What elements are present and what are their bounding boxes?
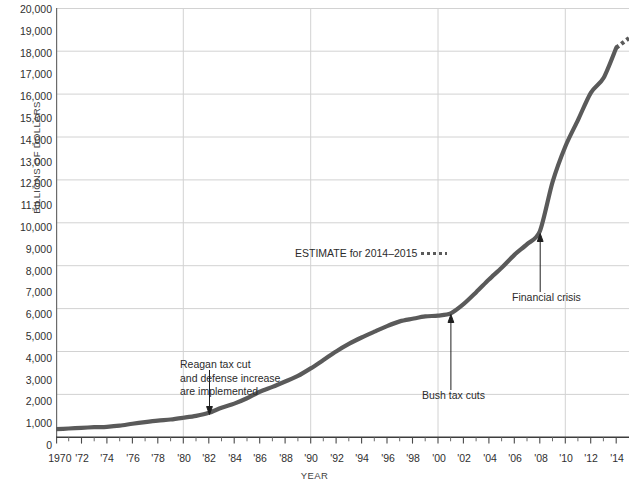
x-tick-label: '96 [381, 452, 395, 464]
annotation-reagan-line2: and defense increase [180, 372, 280, 386]
x-tick-label: '86 [253, 452, 267, 464]
x-tick-label: '74 [100, 452, 114, 464]
annotation-bush-tax-cuts: Bush tax cuts [422, 389, 485, 403]
x-tick-label: '84 [228, 452, 242, 464]
x-tick-label: '12 [584, 452, 598, 464]
x-tick-label: '78 [151, 452, 165, 464]
x-tick-label: '82 [202, 452, 216, 464]
x-tick-label: 1970 [48, 452, 71, 464]
annotation-reagan-line1: Reagan tax cut [180, 358, 280, 372]
annotation-estimate-legend: ESTIMATE for 2014–2015 [295, 247, 447, 261]
x-tick-label: '92 [330, 452, 344, 464]
x-tick-label: '00 [432, 452, 446, 464]
x-tick-label: '72 [75, 452, 89, 464]
x-tick-label: '14 [610, 452, 624, 464]
dashed-line-sample-icon [421, 252, 447, 255]
x-tick-label: '06 [508, 452, 522, 464]
annotation-reagan-line3: are implemented [180, 385, 280, 399]
chart-figure: BILLIONS OF DOLLARS 20,000 19,000 18,000… [0, 0, 629, 487]
x-axis-tick-labels: 1970 '72 '74 '76 '78 '80 '82 '84 '86 '88… [0, 0, 629, 487]
x-tick-label: '88 [279, 452, 293, 464]
x-tick-label: '10 [559, 452, 573, 464]
x-tick-label: '90 [304, 452, 318, 464]
x-tick-label: '80 [177, 452, 191, 464]
annotation-financial-crisis: Financial crisis [512, 291, 581, 305]
x-axis-title: YEAR [0, 470, 629, 481]
x-tick-label: '98 [406, 452, 420, 464]
x-tick-label: '02 [457, 452, 471, 464]
x-tick-label: '04 [483, 452, 497, 464]
annotation-reagan-tax-cut: Reagan tax cut and defense increase are … [180, 358, 280, 399]
x-tick-label: '08 [534, 452, 548, 464]
annotation-estimate-label: ESTIMATE for 2014–2015 [295, 247, 417, 259]
x-tick-label: '76 [126, 452, 140, 464]
x-tick-label: '94 [355, 452, 369, 464]
